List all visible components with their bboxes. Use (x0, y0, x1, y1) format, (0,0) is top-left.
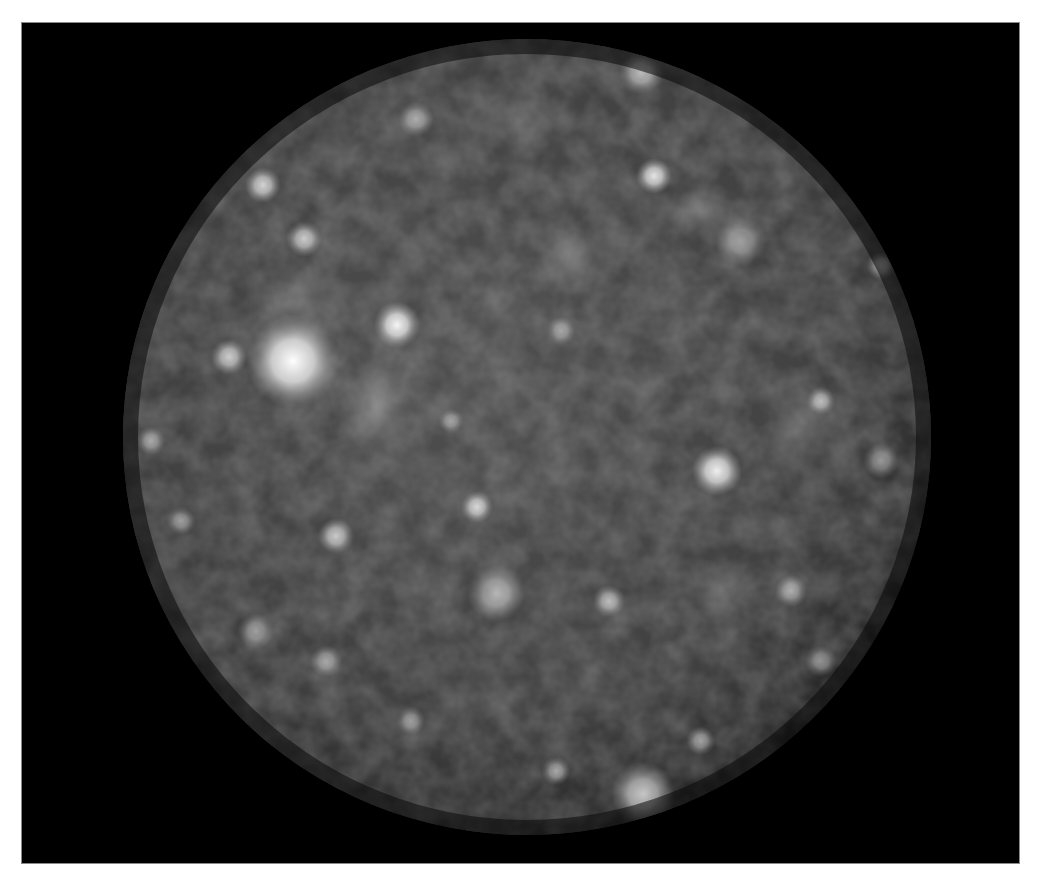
crater-spot (374, 302, 421, 349)
crater-spot (692, 446, 742, 496)
bright-patch (681, 556, 761, 626)
bright-patch (331, 346, 421, 466)
crater-spot (246, 314, 340, 408)
crater-spot (286, 221, 322, 257)
crater-spot (438, 408, 463, 433)
photo-frame (21, 22, 1020, 864)
crater-spot (716, 216, 766, 266)
crater-spot (211, 339, 247, 375)
crater-spot (542, 757, 571, 786)
crater-spot (238, 613, 274, 649)
crater-spot (167, 507, 196, 536)
crater-spot (245, 167, 281, 203)
crater-spot (461, 491, 493, 523)
bright-patch (534, 216, 604, 296)
crater-spot (547, 317, 576, 346)
crater-spot (137, 427, 166, 456)
moon-image (22, 23, 1020, 864)
crater-spot (687, 727, 716, 756)
crater-spot (805, 645, 837, 677)
crater-spot (636, 158, 672, 194)
bright-patch (761, 371, 841, 471)
crater-spot (318, 518, 354, 554)
crater-spot (775, 575, 807, 607)
crater-spot (807, 387, 836, 416)
crater-spot (593, 585, 625, 617)
crater-spot (397, 707, 426, 736)
crater-spot (310, 645, 342, 677)
crater-spot (863, 443, 899, 479)
crater-spot (398, 101, 434, 137)
crater-spot (467, 564, 525, 622)
bright-patch (461, 91, 581, 151)
